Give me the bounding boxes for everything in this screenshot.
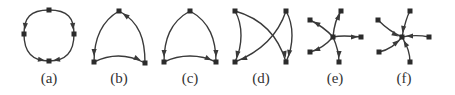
edge [94, 11, 119, 62]
node [22, 32, 27, 37]
graph-patterns-figure: (a)(b)(c)(d)(e)(f) [0, 0, 455, 95]
node [376, 18, 381, 23]
node [72, 32, 77, 37]
node [47, 59, 52, 64]
node [377, 50, 382, 55]
hub-node [331, 35, 336, 40]
node [92, 60, 97, 65]
node [214, 60, 219, 65]
panel-label: (a) [41, 70, 58, 87]
arrowhead-icon [53, 57, 61, 63]
panel-a: (a) [22, 8, 77, 88]
arrowhead-icon [22, 23, 28, 30]
arrowhead-icon [38, 57, 46, 63]
hub-node [400, 35, 405, 40]
arrowhead-icon [401, 39, 409, 48]
arrowhead-icon [213, 50, 218, 57]
arrowhead-icon [312, 46, 320, 53]
node [339, 9, 344, 14]
arrowhead-icon [204, 55, 213, 63]
panel-label: (d) [252, 70, 270, 87]
node [284, 60, 289, 65]
node [308, 50, 313, 55]
panel-label: (f) [397, 70, 412, 87]
edge [49, 10, 74, 34]
edge [402, 36, 429, 38]
node [284, 9, 289, 14]
arrowhead-icon [91, 49, 96, 56]
edge [164, 11, 190, 62]
panel-label: (b) [110, 70, 128, 87]
node [143, 61, 148, 66]
node [233, 9, 238, 14]
edge [235, 11, 286, 62]
node [359, 35, 364, 40]
edge [310, 20, 333, 37]
node [337, 60, 342, 65]
node [162, 60, 167, 65]
edge [402, 37, 410, 62]
node [308, 18, 313, 23]
node [408, 60, 413, 65]
panel-c: (c) [161, 9, 218, 88]
node [427, 35, 432, 40]
edge [310, 37, 333, 52]
arrowhead-icon [406, 33, 413, 38]
node [408, 9, 413, 14]
edge [378, 20, 402, 37]
arrowhead-icon [161, 50, 166, 57]
node [47, 8, 52, 13]
panel-b: (b) [91, 9, 147, 88]
edge [190, 11, 216, 62]
edge [119, 11, 145, 63]
edge [235, 11, 286, 62]
node [233, 60, 238, 65]
node [117, 9, 122, 14]
panel-label: (e) [327, 70, 344, 87]
edge [49, 34, 74, 61]
edge [24, 34, 49, 61]
panel-e: (e) [308, 9, 364, 88]
arrowhead-icon [336, 51, 341, 58]
node [188, 9, 193, 14]
panel-f: (f) [376, 9, 432, 88]
arrowhead-icon [70, 23, 76, 30]
edge [24, 10, 49, 34]
edge [402, 11, 410, 37]
edge [333, 37, 339, 62]
panel-label: (c) [182, 70, 199, 87]
arrowhead-icon [351, 34, 358, 39]
edge [379, 37, 402, 52]
panel-d: (d) [233, 9, 293, 88]
